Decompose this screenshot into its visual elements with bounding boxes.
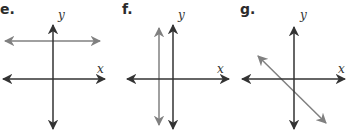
coordinate-plane-e [0,0,115,137]
coordinate-plane-f [115,0,230,137]
panel-g: g. y x [230,0,346,137]
panel-f: f. y x [115,0,230,137]
panel-e: e. y x [0,0,115,137]
coordinate-plane-g [230,0,346,137]
gray-diagonal-line [258,56,326,123]
